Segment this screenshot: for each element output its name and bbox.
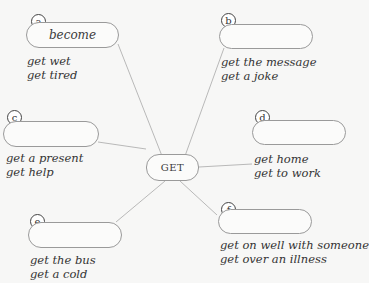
answer-box-c[interactable]: [3, 121, 99, 147]
example: get a cold: [30, 267, 96, 281]
example: get the message: [221, 55, 316, 69]
examples-f: get on well with someone get over an ill…: [220, 238, 369, 266]
example: get on well with someone: [220, 238, 369, 252]
answer-box-a[interactable]: become: [26, 22, 119, 48]
example: get tired: [27, 68, 77, 82]
examples-e: get the bus get a cold: [30, 253, 96, 281]
example: get the bus: [30, 253, 96, 267]
answer-box-f[interactable]: [218, 209, 312, 234]
example: get home: [254, 152, 321, 166]
examples-c: get a present get help: [6, 151, 83, 179]
example: get a joke: [221, 69, 316, 83]
answer-box-d[interactable]: [252, 120, 346, 145]
examples-d: get home get to work: [254, 152, 321, 180]
examples-a: get wet get tired: [27, 54, 77, 82]
examples-b: get the message get a joke: [221, 55, 316, 83]
example: get to work: [254, 166, 321, 180]
example: get a present: [6, 151, 83, 165]
example: get over an illness: [220, 252, 369, 266]
answer-box-b[interactable]: [219, 24, 313, 49]
center-node-get: GET: [146, 154, 199, 181]
example: get wet: [27, 54, 77, 68]
answer-box-e[interactable]: [28, 222, 122, 248]
example: get help: [6, 165, 83, 179]
